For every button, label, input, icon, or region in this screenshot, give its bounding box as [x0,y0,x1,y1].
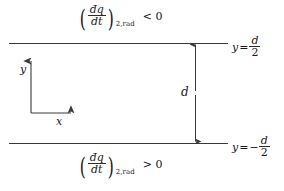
gap-dimension-arrow [187,43,204,143]
flux-subscript-bottom: 2,rad [116,169,135,176]
bc-numerator-top: d [249,35,260,46]
flux-fraction-bottom: đqdt [88,152,106,176]
x-axis-label: x [56,115,62,128]
open-paren-bottom: ( [80,154,86,179]
flux-numerator-top: đq [88,4,106,15]
bc-fraction-bottom: d2 [259,135,270,159]
bc-sign-bottom: − [249,141,258,154]
flux-label-bottom: (đqdt)2,rad > 0 [78,152,164,179]
y-axis-label: y [20,63,26,76]
flux-relation-top: < 0 [142,10,164,23]
close-paren-top: ) [108,6,114,31]
flux-denominator-bottom: dt [88,163,106,175]
flux-relation-bottom: > 0 [142,158,164,171]
flux-denominator-top: dt [88,15,106,27]
bc-denominator-bottom: 2 [259,146,270,158]
bc-denominator-top: 2 [249,46,260,58]
close-paren-bottom: ) [108,154,114,179]
bc-numerator-bottom: d [259,135,270,146]
bc-equals-bottom: = [238,141,249,154]
lower-plate [9,143,228,144]
boundary-label-bottom: y=−d2 [232,135,270,159]
boundary-label-top: y=d2 [232,35,260,59]
gap-dimension-label: d [181,85,189,99]
open-paren-top: ( [80,6,86,31]
bc-equals-top: = [238,41,249,54]
bc-fraction-top: d2 [249,35,260,59]
flux-label-top: (đqdt)2,rad < 0 [78,4,164,31]
flux-subscript-top: 2,rad [116,21,135,28]
flux-fraction-top: đqdt [88,4,106,28]
parallel-plate-radiative-flux-diagram: (đqdt)2,rad < 0 d [0,0,284,191]
flux-numerator-bottom: đq [88,152,106,163]
